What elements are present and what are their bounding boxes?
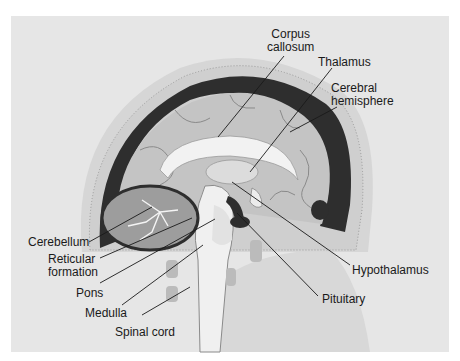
label-cerebellum: Cerebellum <box>28 236 89 249</box>
cerebellum <box>102 186 198 250</box>
label-pituitary: Pituitary <box>322 293 365 306</box>
label-pons: Pons <box>76 287 103 300</box>
brain-illustration <box>0 0 460 361</box>
pituitary <box>230 216 250 228</box>
label-corpus-callosum: Corpus callosum <box>267 28 314 54</box>
label-medulla: Medulla <box>85 307 127 320</box>
label-spinal-cord: Spinal cord <box>115 326 175 339</box>
sinus <box>311 200 329 220</box>
label-thalamus: Thalamus <box>318 56 371 69</box>
label-cerebral-hemisphere: Cerebral hemisphere <box>331 82 394 108</box>
label-hypothalamus: Hypothalamus <box>352 264 429 277</box>
label-reticular-formation: Reticular formation <box>48 253 98 279</box>
